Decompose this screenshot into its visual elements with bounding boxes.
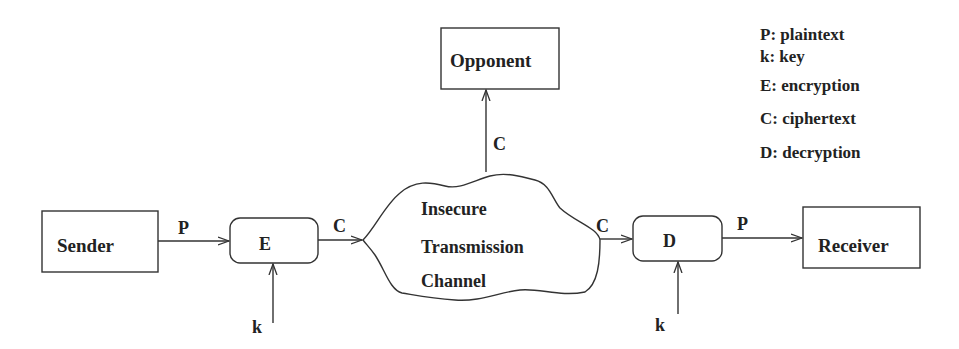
channel-label-line1: Insecure: [421, 199, 487, 219]
edge-label-p2: P: [737, 214, 748, 234]
legend-item-ciphertext: C: ciphertext: [760, 110, 856, 127]
edge-label-c3: C: [596, 216, 609, 236]
channel-label-line3: Channel: [421, 271, 486, 291]
channel-node: Insecure Transmission Channel: [363, 174, 600, 300]
edge-sender-to-encrypt: P: [158, 218, 229, 241]
edge-key-to-decrypt: k: [655, 262, 678, 335]
opponent-label: Opponent: [450, 50, 532, 71]
edge-label-k1: k: [252, 317, 262, 337]
edge-label-c1: C: [333, 216, 346, 236]
legend-item-key: k: key: [760, 48, 805, 65]
encrypt-label: E: [259, 234, 271, 254]
edge-label-k2: k: [655, 315, 665, 335]
diagram-canvas: Sender P E k C Insecure Transmission Cha…: [0, 0, 959, 349]
edge-encrypt-to-channel: C: [318, 216, 362, 240]
receiver-label: Receiver: [818, 235, 889, 256]
edge-channel-to-opponent: C: [486, 90, 506, 172]
encrypt-node: E: [230, 218, 318, 263]
edge-label-p1: P: [178, 218, 189, 238]
decrypt-node: D: [633, 216, 722, 261]
opponent-node: Opponent: [441, 28, 559, 89]
decrypt-box: [633, 216, 722, 261]
receiver-node: Receiver: [803, 207, 920, 268]
channel-label-line2: Transmission: [421, 237, 524, 257]
encrypt-box: [230, 218, 318, 263]
legend-item-decryption: D: decryption: [760, 144, 861, 161]
legend-item-plaintext: P: plaintext: [760, 26, 845, 43]
legend-item-encryption: E: encryption: [760, 77, 860, 94]
edge-label-c2: C: [493, 134, 506, 154]
edge-channel-to-decrypt: C: [596, 216, 632, 239]
edge-key-to-encrypt: k: [252, 264, 273, 337]
sender-label: Sender: [57, 235, 115, 256]
decrypt-label: D: [663, 231, 676, 251]
edge-decrypt-to-receiver: P: [722, 214, 802, 238]
sender-node: Sender: [42, 211, 158, 272]
